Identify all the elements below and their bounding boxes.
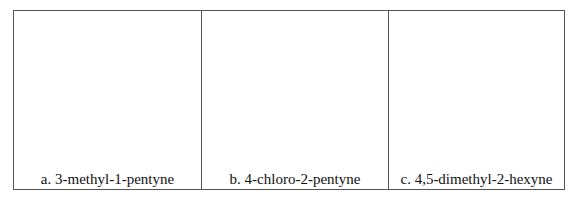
table-cell-c: c. 4,5-dimethyl-2-hexyne: [388, 11, 564, 189]
drawing-area-b: [202, 11, 388, 167]
table-cell-b: b. 4-chloro-2-pentyne: [201, 11, 388, 189]
compound-label-b: b. 4-chloro-2-pentyne: [230, 170, 361, 189]
drawing-area-c: [389, 11, 564, 167]
compound-label-a: a. 3-methyl-1-pentyne: [41, 170, 174, 189]
table-cell-a: a. 3-methyl-1-pentyne: [14, 11, 201, 189]
compound-label-c: c. 4,5-dimethyl-2-hexyne: [400, 170, 552, 189]
drawing-area-a: [14, 11, 201, 167]
structure-drawing-table: a. 3-methyl-1-pentyne b. 4-chloro-2-pent…: [13, 10, 565, 190]
